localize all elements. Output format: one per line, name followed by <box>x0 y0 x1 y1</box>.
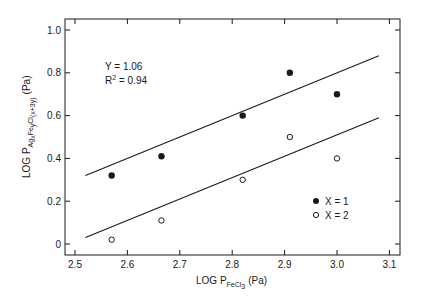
x-tick-label: 2.7 <box>173 259 187 270</box>
data-point-open <box>109 237 114 242</box>
data-points <box>108 70 340 243</box>
legend-marker-open-circle <box>313 212 318 217</box>
plot-frame <box>65 19 400 255</box>
x-tick-label: 3.0 <box>330 259 344 270</box>
data-point-open <box>240 177 245 182</box>
data-point-filled <box>108 172 114 178</box>
x-axis-label: LOG PFeCl3(Pa) <box>196 275 267 290</box>
x-tick-label: 2.5 <box>68 259 82 270</box>
x-axis: 2.52.62.72.82.93.03.1 <box>68 19 397 270</box>
fit-annotation-r2: R2 = 0.94 <box>105 74 147 86</box>
fit-annotation-slope: Y = 1.06 <box>105 61 143 72</box>
x-tick-label: 2.8 <box>225 259 239 270</box>
x-tick-label: 2.9 <box>278 259 292 270</box>
data-point-filled <box>287 70 293 76</box>
data-point-filled <box>158 153 164 159</box>
x-tick-label: 3.1 <box>382 259 396 270</box>
data-point-open <box>287 134 292 139</box>
data-point-filled <box>239 112 245 118</box>
legend: X = 1 X = 2 <box>313 196 349 221</box>
y-axis-label: LOG PAgxFeyCl(x+3y)(Pa) <box>21 76 37 179</box>
legend-marker-filled-circle <box>313 198 319 204</box>
legend-label-x2: X = 2 <box>325 210 349 221</box>
data-point-open <box>334 156 339 161</box>
y-tick-label: 0.6 <box>47 110 61 121</box>
y-tick-label: 0 <box>55 239 61 250</box>
y-tick-label: 1.0 <box>47 25 61 36</box>
y-tick-label: 0.8 <box>47 67 61 78</box>
y-tick-label: 0.4 <box>47 153 61 164</box>
scatter-chart: 2.52.62.72.82.93.03.1 00.20.40.60.81.0 L… <box>0 0 421 300</box>
data-point-open <box>159 218 164 223</box>
x-tick-label: 2.6 <box>120 259 134 270</box>
data-point-filled <box>334 91 340 97</box>
y-tick-label: 0.2 <box>47 196 61 207</box>
legend-label-x1: X = 1 <box>325 196 349 207</box>
